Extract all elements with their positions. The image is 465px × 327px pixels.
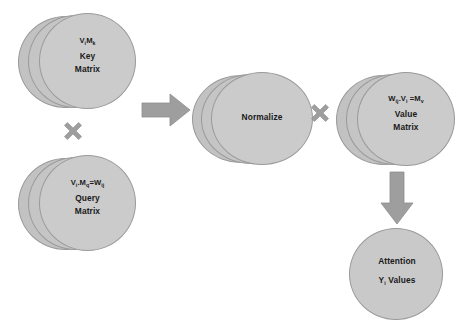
node-attention-line2: Yi Values bbox=[350, 274, 444, 287]
diagram-canvas: ViMk Key Matrix Vi.Mq=Wij Query Matrix bbox=[0, 0, 465, 327]
node-value-matrix[interactable]: Wij.Vi =Mv Value Matrix bbox=[336, 72, 458, 170]
node-attention-output[interactable]: Attention Yi Values bbox=[349, 228, 443, 320]
node-normalize-label: Normalize bbox=[211, 111, 313, 124]
node-query-matrix-label: Vi.Mq=Wij Query Matrix bbox=[36, 177, 139, 218]
node-normalize-text: Normalize bbox=[211, 111, 313, 124]
node-key-matrix[interactable]: ViMk Key Matrix bbox=[18, 13, 140, 111]
operator-multiply-right bbox=[308, 101, 332, 125]
arrow-to-normalize bbox=[140, 90, 192, 130]
node-query-matrix[interactable]: Vi.Mq=Wij Query Matrix bbox=[18, 155, 140, 253]
node-query-matrix-line2: Matrix bbox=[36, 205, 139, 218]
node-value-matrix-label: Wij.Vi =Mv Value Matrix bbox=[355, 93, 457, 134]
node-key-matrix-line1: Key bbox=[39, 50, 136, 63]
node-query-matrix-line1: Query bbox=[36, 192, 139, 205]
node-value-matrix-line1: Value bbox=[355, 108, 457, 121]
node-query-matrix-formula: Vi.Mq=Wij bbox=[36, 177, 139, 189]
node-value-matrix-formula: Wij.Vi =Mv bbox=[355, 93, 457, 105]
arrow-to-attention bbox=[377, 170, 417, 226]
node-attention-line1: Attention bbox=[350, 255, 444, 268]
node-key-matrix-line2: Matrix bbox=[39, 63, 136, 76]
operator-multiply-left bbox=[61, 119, 85, 143]
node-value-matrix-line2: Matrix bbox=[355, 121, 457, 134]
node-attention-output-label: Attention Yi Values bbox=[350, 255, 444, 287]
node-key-matrix-formula: ViMk bbox=[39, 35, 136, 47]
node-key-matrix-label: ViMk Key Matrix bbox=[39, 35, 136, 76]
node-normalize[interactable]: Normalize bbox=[192, 72, 314, 170]
